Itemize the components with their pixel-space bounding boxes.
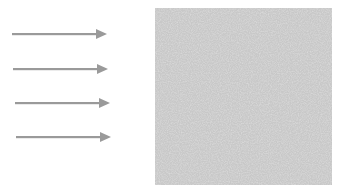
diagram (0, 0, 344, 190)
textured-square (155, 8, 332, 185)
right-arrow-icon (16, 132, 111, 142)
right-arrow-icon (15, 98, 110, 108)
right-arrow-icon (12, 29, 107, 39)
speckle-texture (155, 8, 332, 185)
right-arrow-icon (13, 64, 108, 74)
